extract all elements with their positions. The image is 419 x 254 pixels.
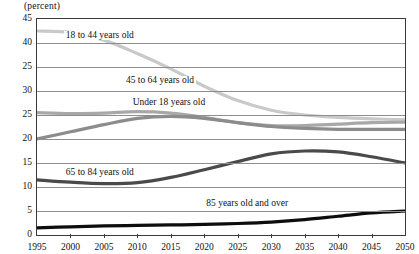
series-label: 85 years old and over <box>204 199 290 209</box>
x-axis-tick-label: 2010 <box>128 243 147 253</box>
x-axis-tick-label: 1995 <box>28 243 47 253</box>
x-axis-tick-mark <box>104 234 105 238</box>
x-axis-tick-label: 2030 <box>262 243 281 253</box>
y-axis-tick-label: 25 <box>2 110 32 120</box>
x-axis-tick-label: 2050 <box>396 243 415 253</box>
series-line <box>37 116 405 139</box>
gridline <box>37 91 405 92</box>
x-axis-tick-mark <box>70 234 71 238</box>
y-axis-tick-label: 15 <box>2 158 32 168</box>
x-axis-tick-mark <box>238 234 239 238</box>
x-axis-tick-label: 2005 <box>94 243 113 253</box>
series-label: 65 to 84 years old <box>64 168 136 178</box>
x-axis-tick-mark <box>204 234 205 238</box>
x-axis-tick-mark <box>305 234 306 238</box>
y-axis-tick-label: 30 <box>2 86 32 96</box>
x-axis-tick-mark <box>137 234 138 238</box>
y-axis-unit-label: (percent) <box>24 1 60 11</box>
series-label: 45 to 64 years old <box>124 76 196 86</box>
y-axis-tick-label: 40 <box>2 38 32 48</box>
series-line <box>37 211 405 228</box>
series-line <box>37 31 405 120</box>
x-axis-tick-mark <box>271 234 272 238</box>
x-axis-tick-label: 2000 <box>61 243 80 253</box>
series-label: Under 18 years old <box>131 98 208 108</box>
x-axis-tick-label: 2040 <box>329 243 348 253</box>
gridline <box>37 139 405 140</box>
series-label: 18 to 44 years old <box>64 31 136 41</box>
gridline <box>37 67 405 68</box>
x-axis-tick-mark <box>372 234 373 238</box>
gridline <box>37 187 405 188</box>
x-axis: 1995200020052010201520202025203020352040… <box>36 238 406 252</box>
chart-container: (percent) 454025302520151050 19952000200… <box>0 0 419 254</box>
x-axis-tick-label: 2015 <box>161 243 180 253</box>
y-axis-tick-label: 5 <box>2 206 32 216</box>
gridline <box>37 43 405 44</box>
gridline <box>37 211 405 212</box>
y-axis-tick-label: 20 <box>2 134 32 144</box>
y-axis-tick-label: 0 <box>2 230 32 240</box>
y-axis-tick-label: 25 <box>2 62 32 72</box>
x-axis-tick-label: 2020 <box>195 243 214 253</box>
x-axis-tick-label: 2025 <box>228 243 247 253</box>
x-axis-tick-label: 2035 <box>295 243 314 253</box>
x-axis-tick-mark <box>171 234 172 238</box>
y-axis-tick-label: 10 <box>2 182 32 192</box>
y-axis-tick-label: 45 <box>2 14 32 24</box>
x-axis-tick-label: 2045 <box>362 243 381 253</box>
gridline <box>37 115 405 116</box>
gridline <box>37 163 405 164</box>
y-axis: 454025302520151050 <box>0 18 32 236</box>
x-axis-tick-mark <box>338 234 339 238</box>
